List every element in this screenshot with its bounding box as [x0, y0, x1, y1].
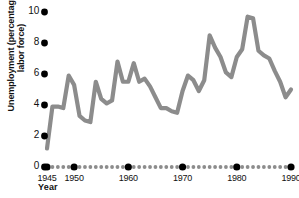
x-tick-dot-minor — [121, 165, 125, 169]
x-tick-dot-minor — [164, 165, 168, 169]
x-tick-dot-minor — [94, 165, 98, 169]
unemployment-line-chart: Unemployment (percentage of labor force)… — [0, 0, 299, 198]
x-tick-dot-minor — [99, 165, 103, 169]
x-tick-dot-major — [71, 163, 78, 170]
x-tick-dot-minor — [143, 165, 147, 169]
x-tick-dot-minor — [284, 165, 288, 169]
x-tick-label: 1980 — [222, 173, 252, 183]
x-tick-dot-minor — [78, 165, 82, 169]
x-tick-dot-minor — [246, 165, 250, 169]
x-tick-dot-minor — [240, 165, 244, 169]
x-tick-dot-minor — [116, 165, 120, 169]
x-tick-dot-minor — [224, 165, 228, 169]
x-tick-dot-minor — [110, 165, 114, 169]
x-tick-label: 1950 — [59, 173, 89, 183]
x-tick-dot-minor — [170, 165, 174, 169]
x-tick-dot-minor — [267, 165, 271, 169]
y-tick-label: 0 — [23, 160, 39, 171]
y-tick-dot — [41, 9, 48, 16]
x-tick-dot-minor — [192, 165, 196, 169]
y-tick-label: 10 — [23, 5, 39, 16]
x-tick-label: 1945 — [32, 173, 62, 183]
y-tick-label: 4 — [23, 98, 39, 109]
plot-area — [0, 0, 299, 198]
x-tick-dot-minor — [197, 165, 201, 169]
x-tick-dot-minor — [56, 165, 60, 169]
y-tick-label: 6 — [23, 67, 39, 78]
y-tick-label: 2 — [23, 129, 39, 140]
x-tick-dot-minor — [154, 165, 158, 169]
y-tick-dot — [41, 71, 48, 78]
x-tick-dot-minor — [132, 165, 136, 169]
x-tick-dot-minor — [202, 165, 206, 169]
x-tick-dot-minor — [105, 165, 109, 169]
x-tick-dot-minor — [61, 165, 65, 169]
x-tick-dot-minor — [148, 165, 152, 169]
x-tick-dot-minor — [208, 165, 212, 169]
x-tick-dot-minor — [137, 165, 141, 169]
x-tick-dot-major — [179, 163, 186, 170]
x-tick-dot-minor — [159, 165, 163, 169]
x-tick-label: 1970 — [168, 173, 198, 183]
x-tick-dot-minor — [213, 165, 217, 169]
y-tick-label: 8 — [23, 36, 39, 47]
x-tick-dot-minor — [262, 165, 266, 169]
x-tick-dot-minor — [278, 165, 282, 169]
x-tick-dot-minor — [175, 165, 179, 169]
x-tick-dot-minor — [229, 165, 233, 169]
y-tick-dot — [41, 40, 48, 47]
x-tick-label: 1960 — [113, 173, 143, 183]
x-tick-dot-minor — [83, 165, 87, 169]
x-tick-dot-major — [43, 163, 50, 170]
x-tick-dot-minor — [67, 165, 71, 169]
x-tick-dot-minor — [88, 165, 92, 169]
x-tick-dot-major — [287, 163, 294, 170]
x-tick-dot-major — [125, 163, 132, 170]
y-tick-dot — [41, 133, 48, 140]
data-line-unemployment — [47, 17, 291, 149]
x-tick-dot-minor — [186, 165, 190, 169]
x-tick-dot-minor — [251, 165, 255, 169]
x-tick-dot-minor — [273, 165, 277, 169]
x-tick-label: 1990 — [276, 173, 299, 183]
y-tick-dot — [41, 102, 48, 109]
x-tick-dot-major — [233, 163, 240, 170]
x-tick-dot-minor — [51, 165, 55, 169]
x-tick-dot-minor — [257, 165, 261, 169]
x-tick-dot-minor — [219, 165, 223, 169]
